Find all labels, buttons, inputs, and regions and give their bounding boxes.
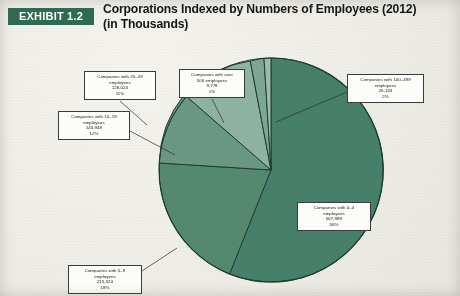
- callout-over-500-employees: Companies with over 500 employees 9,778 …: [179, 69, 245, 98]
- callout-5-9-percent: 18%: [72, 285, 138, 291]
- callout-over-500-percent: 1%: [183, 89, 241, 95]
- pie-chart-area: Companies with 20–29 employees 128,024 1…: [0, 30, 460, 296]
- callout-10-19-line1: Companies with 10–19: [62, 114, 126, 120]
- callout-100-499-percent: 2%: [351, 94, 420, 100]
- callout-20-29-percent: 11%: [88, 91, 152, 97]
- exhibit-title: Corporations Indexed by Numbers of Emplo…: [103, 2, 453, 31]
- callout-100-499-line1: Companies with 100–499: [351, 77, 420, 83]
- exhibit-title-line-1: Corporations Indexed by Numbers of Emplo…: [103, 2, 416, 16]
- callout-20-29-employees: Companies with 20–29 employees 128,024 1…: [84, 71, 156, 100]
- callout-5-9-employees: Companies with 5–9 employees 215,324 18%: [68, 265, 142, 294]
- exhibit-page: EXHIBIT 1.2 Corporations Indexed by Numb…: [0, 0, 460, 296]
- callout-over-500-line1: Companies with over: [183, 72, 241, 78]
- callout-100-499-employees: Companies with 100–499 employees 26,133 …: [347, 74, 424, 103]
- exhibit-title-line-2: (in Thousands): [103, 17, 453, 32]
- callout-10-19-employees: Companies with 10–19 employees 143,948 1…: [58, 111, 130, 140]
- callout-20-29-line1: Companies with 20–29: [88, 74, 152, 80]
- callout-0-4-percent: 56%: [301, 222, 367, 228]
- exhibit-number-label: EXHIBIT 1.2: [19, 11, 83, 22]
- exhibit-number-badge: EXHIBIT 1.2: [8, 8, 94, 25]
- callout-0-4-employees: Companies with 0–4 employees 667,989 56%: [297, 202, 371, 231]
- callout-10-19-percent: 12%: [62, 131, 126, 137]
